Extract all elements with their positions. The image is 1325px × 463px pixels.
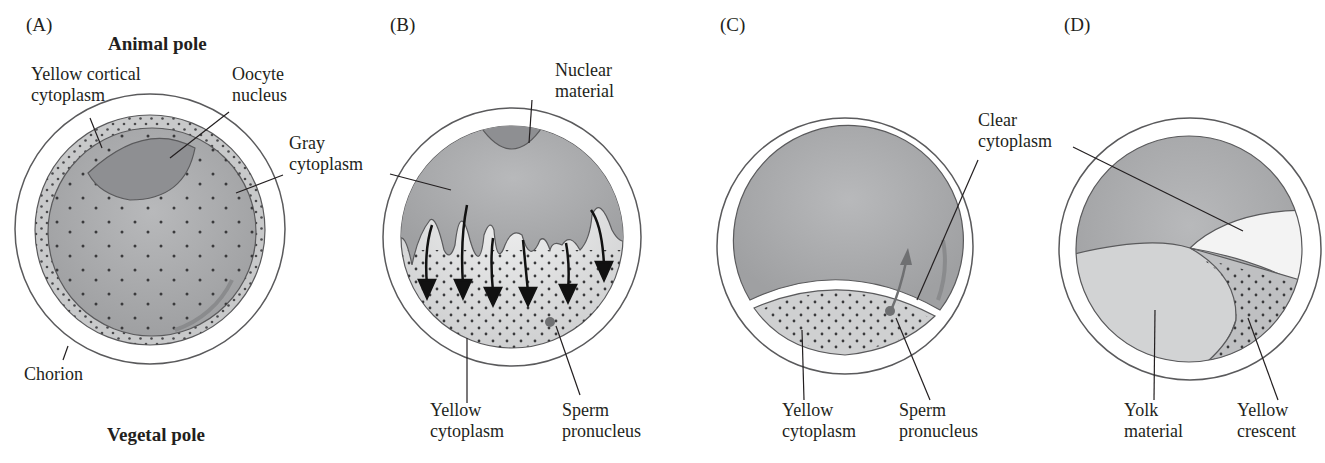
sperm-pronucleus xyxy=(885,306,895,316)
sperm-pronucleus xyxy=(545,317,555,327)
callout-yellow-cytoplasm-b: Yellow cytoplasm xyxy=(430,400,504,442)
panel-a-label: (A) xyxy=(26,14,52,36)
callout-gray-cytoplasm: Gray cytoplasm xyxy=(289,133,363,175)
callout-nuclear-material: Nuclear material xyxy=(555,60,614,102)
panel-b-label: (B) xyxy=(390,14,415,36)
callout-yolk-material: Yolk material xyxy=(1124,400,1183,442)
panel-b-egg xyxy=(383,100,641,403)
vegetal-pole-label: Vegetal pole xyxy=(107,424,205,446)
callout-chorion: Chorion xyxy=(24,364,83,385)
callout-clear-cytoplasm: Clear cytoplasm xyxy=(978,110,1052,152)
panel-a-egg xyxy=(15,94,285,364)
callout-yellow-cortical-cytoplasm: Yellow cortical cytoplasm xyxy=(31,64,141,106)
panel-d-label: (D) xyxy=(1064,14,1090,36)
callout-yellow-crescent: Yellow crescent xyxy=(1237,400,1296,442)
callout-sperm-pronucleus-c: Sperm pronucleus xyxy=(899,400,978,442)
callout-oocyte-nucleus: Oocyte nucleus xyxy=(232,64,287,106)
panel-c-label: (C) xyxy=(720,14,745,36)
animal-pole-label: Animal pole xyxy=(108,33,207,55)
ooplasmic-segregation-diagram xyxy=(0,0,1325,463)
panel-c-egg xyxy=(717,118,978,400)
callout-yellow-cytoplasm-c: Yellow cytoplasm xyxy=(782,400,856,442)
panel-d-egg xyxy=(1059,118,1321,400)
callout-sperm-pronucleus-b: Sperm pronucleus xyxy=(562,400,641,442)
